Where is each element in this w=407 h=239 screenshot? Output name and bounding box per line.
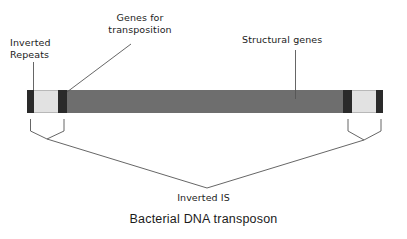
leader-lines-overlay bbox=[0, 0, 407, 239]
transposon-diagram: Inverted Repeats Genes for transposition… bbox=[0, 0, 407, 239]
bracket-left-inverted-is bbox=[31, 119, 65, 139]
leader-line-genes-for-transposition bbox=[67, 44, 131, 92]
bracket-right-inverted-is bbox=[348, 119, 381, 140]
convergence-v-inverted-is bbox=[47, 139, 364, 188]
